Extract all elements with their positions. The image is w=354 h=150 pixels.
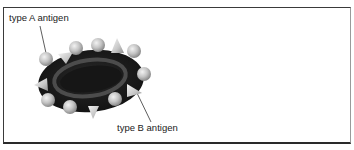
type-a-leader-line: [40, 26, 46, 53]
sphere-antigen: [127, 44, 141, 58]
sphere-antigen: [91, 38, 105, 52]
type-b-leader-line: [137, 93, 151, 122]
sphere-antigen: [41, 93, 55, 107]
cone-antigen: [111, 38, 124, 53]
sphere-antigen: [39, 52, 53, 66]
type-a-antigen-label: type A antigen: [9, 13, 69, 23]
type-b-antigen-label: type B antigen: [117, 123, 178, 133]
sphere-antigen: [137, 67, 151, 81]
sphere-antigen: [63, 100, 77, 114]
sphere-antigen: [69, 41, 83, 55]
cone-antigen: [88, 106, 99, 119]
sphere-antigen: [108, 92, 122, 106]
